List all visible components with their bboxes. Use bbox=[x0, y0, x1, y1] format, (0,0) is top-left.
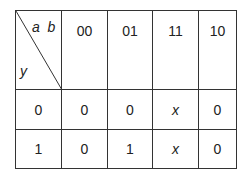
cell-y0-01: 0 bbox=[108, 90, 153, 130]
corner-cell: a b y bbox=[16, 11, 62, 90]
cell-y0-10: 0 bbox=[199, 90, 236, 130]
cell-y1-10: 0 bbox=[199, 130, 236, 168]
column-variables-label: a b bbox=[32, 19, 55, 35]
column-header-01: 01 bbox=[108, 11, 153, 90]
column-header-10: 10 bbox=[199, 11, 236, 90]
cell-y1-11: x bbox=[153, 130, 199, 168]
cell-y0-11: x bbox=[153, 90, 199, 130]
karnaugh-map: a b y 00 01 11 10 0 0 0 x 0 1 0 1 x 0 bbox=[15, 10, 237, 169]
row-label-0: 0 bbox=[16, 90, 62, 130]
column-header-11: 11 bbox=[153, 11, 199, 90]
cell-y1-00: 0 bbox=[62, 130, 108, 168]
row-label-1: 1 bbox=[16, 130, 62, 168]
column-header-00: 00 bbox=[62, 11, 108, 90]
cell-y1-01: 1 bbox=[108, 130, 153, 168]
row-variable-label: y bbox=[20, 63, 27, 79]
cell-y0-00: 0 bbox=[62, 90, 108, 130]
